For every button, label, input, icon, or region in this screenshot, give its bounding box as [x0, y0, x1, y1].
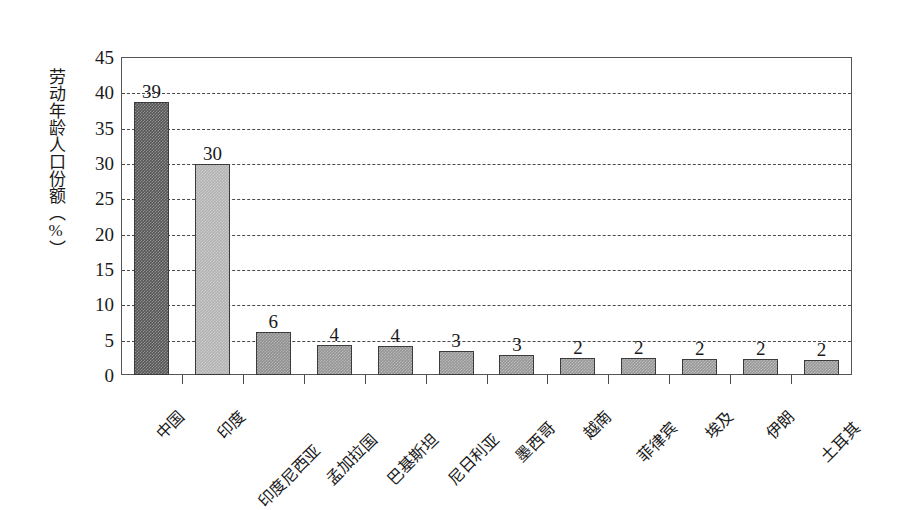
- y-tick-label-45: 45: [68, 48, 114, 67]
- x-category-label-text: 孟加拉国: [324, 431, 381, 488]
- bar-value-label: 2: [573, 338, 583, 357]
- y-tick-label-40: 40: [68, 83, 114, 102]
- y-axis-title: 劳动年龄人口份额（%）: [30, 68, 64, 257]
- bars-layer: 39306443322222: [121, 57, 852, 375]
- x-category-label: 巴基斯坦: [385, 431, 442, 488]
- x-category-label: 印度: [215, 409, 249, 443]
- bar: 30: [195, 164, 230, 375]
- bar: 2: [560, 358, 595, 375]
- bar-value-label: 39: [142, 82, 161, 101]
- x-tick: [547, 375, 548, 384]
- y-tick-label-20: 20: [68, 224, 114, 243]
- y-tick-label-0: 0: [68, 366, 114, 385]
- x-tick: [608, 375, 609, 384]
- x-category-label-text: 巴基斯坦: [385, 431, 442, 488]
- bar-value-label: 2: [695, 339, 705, 358]
- bar-value-label: 4: [329, 325, 339, 344]
- x-category-label-text: 土耳其: [818, 420, 863, 465]
- x-category-label: 伊朗: [763, 409, 797, 443]
- x-tick: [243, 375, 244, 384]
- bar-value-label: 30: [203, 144, 222, 163]
- x-category-label: 孟加拉国: [324, 431, 381, 488]
- bar: 3: [439, 351, 474, 375]
- x-axis-ticks: [121, 375, 852, 384]
- bar-value-label: 3: [451, 331, 461, 350]
- x-category-label: 埃及: [702, 409, 736, 443]
- y-tick-label-35: 35: [68, 118, 114, 137]
- x-category-label-text: 印度尼西亚: [256, 443, 324, 510]
- bar-value-label: 3: [512, 335, 522, 354]
- x-category-label: 尼日利亚: [446, 431, 503, 488]
- x-axis-category-labels: 中国印度印度尼西亚孟加拉国巴基斯坦尼日利亚墨西哥越南菲律宾埃及伊朗土耳其: [121, 386, 852, 486]
- bar-value-label: 4: [390, 326, 400, 345]
- x-category-label-text: 尼日利亚: [446, 431, 503, 488]
- bar-value-label: 2: [634, 338, 644, 357]
- bar: 39: [134, 102, 169, 375]
- bar: 4: [317, 345, 352, 375]
- bar: 2: [682, 359, 717, 375]
- x-tick: [791, 375, 792, 384]
- x-tick: [487, 375, 488, 384]
- y-tick-label-10: 10: [68, 295, 114, 314]
- x-category-label-text: 埃及: [702, 409, 736, 443]
- y-tick-label-15: 15: [68, 260, 114, 279]
- x-tick: [426, 375, 427, 384]
- x-category-label: 印度尼西亚: [256, 443, 324, 510]
- x-category-label-text: 中国: [154, 409, 188, 443]
- x-tick: [182, 375, 183, 384]
- bar-value-label: 2: [756, 339, 766, 358]
- bar: 2: [804, 360, 839, 375]
- x-tick: [304, 375, 305, 384]
- bar: 4: [378, 346, 413, 375]
- bar: 2: [621, 358, 656, 375]
- x-category-label: 中国: [154, 409, 188, 443]
- x-tick: [669, 375, 670, 384]
- x-category-label-text: 菲律宾: [635, 420, 680, 465]
- x-tick: [730, 375, 731, 384]
- bar: 3: [499, 355, 534, 375]
- bar: 2: [743, 359, 778, 375]
- x-category-label-text: 印度: [215, 409, 249, 443]
- x-tick: [365, 375, 366, 384]
- y-tick-label-5: 5: [68, 330, 114, 349]
- bar-value-label: 2: [817, 340, 827, 359]
- x-category-label: 越南: [581, 409, 615, 443]
- x-category-label: 墨西哥: [513, 420, 558, 465]
- bar: 6: [256, 332, 291, 375]
- bar-value-label: 6: [269, 312, 279, 331]
- x-category-label: 土耳其: [818, 420, 863, 465]
- y-tick-label-30: 30: [68, 154, 114, 173]
- x-category-label-text: 伊朗: [763, 409, 797, 443]
- y-tick-label-25: 25: [68, 189, 114, 208]
- y-axis-tick-labels: 051015202530354045: [68, 0, 114, 497]
- x-category-label-text: 墨西哥: [513, 420, 558, 465]
- x-category-label: 菲律宾: [635, 420, 680, 465]
- x-category-label-text: 越南: [581, 409, 615, 443]
